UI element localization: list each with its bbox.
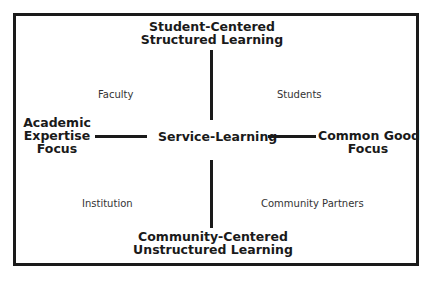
top-axis-line-2: Structured Learning (0, 33, 424, 46)
bottom-axis-line-2: Unstructured Learning (0, 243, 426, 256)
horizontal-axis-left (95, 135, 147, 138)
top-axis-label: Student-Centered Structured Learning (0, 20, 424, 46)
vertical-axis-top (210, 50, 213, 120)
left-axis-label: Academic Expertise Focus (22, 116, 92, 155)
quadrant-top-right: Students (277, 89, 322, 100)
vertical-axis-bottom (210, 160, 213, 228)
quadrant-bottom-left: Institution (82, 198, 133, 209)
bottom-axis-label: Community-Centered Unstructured Learning (0, 230, 426, 256)
quadrant-top-left: Faculty (98, 89, 133, 100)
right-axis-line-2: Focus (318, 142, 418, 155)
left-axis-line-3: Focus (22, 142, 92, 155)
center-label: Service-Learning (158, 130, 277, 143)
quadrant-bottom-right: Community Partners (261, 198, 364, 209)
right-axis-label: Common Good Focus (318, 129, 418, 155)
